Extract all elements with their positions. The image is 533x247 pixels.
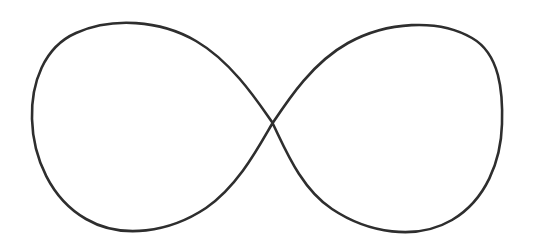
canvas-background <box>0 0 533 247</box>
canvas-root: Infinity Symbol A hand-drawn infinity sy… <box>0 0 533 247</box>
infinity-symbol-figure: Infinity Symbol A hand-drawn infinity sy… <box>0 0 533 247</box>
